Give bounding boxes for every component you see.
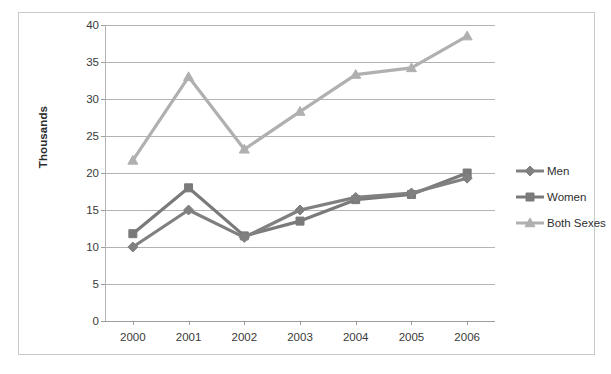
x-tick-label: 2006	[454, 331, 480, 343]
diamond-marker-icon	[516, 163, 544, 179]
y-tick-mark	[101, 321, 105, 322]
series-plot	[105, 25, 495, 321]
x-tick-label: 2004	[343, 331, 369, 343]
y-axis-title: Thousands	[37, 77, 49, 197]
x-tick-label: 2000	[120, 331, 146, 343]
data-point-marker	[462, 31, 472, 40]
y-tick-label: 35	[86, 56, 99, 68]
triangle-marker-icon	[516, 215, 544, 231]
x-tick-label: 2003	[287, 331, 313, 343]
series-men	[128, 173, 472, 252]
legend-label: Both Sexes	[547, 217, 606, 229]
x-tick-label: 2005	[399, 331, 425, 343]
legend-item-both-sexes[interactable]: Both Sexes	[516, 210, 611, 236]
x-tick-mark	[467, 321, 468, 325]
x-tick-mark	[356, 321, 357, 325]
plot-area: 0510152025303540 20002001200220032004200…	[105, 25, 495, 321]
x-tick-mark	[411, 321, 412, 325]
series-both-sexes	[128, 31, 472, 164]
legend-item-men[interactable]: Men	[516, 158, 611, 184]
y-tick-label: 40	[86, 19, 99, 31]
data-point-marker	[296, 217, 304, 225]
data-point-marker	[129, 230, 137, 238]
legend-label: Men	[547, 165, 569, 177]
x-tick-mark	[189, 321, 190, 325]
y-tick-label: 25	[86, 130, 99, 142]
y-tick-label: 30	[86, 93, 99, 105]
legend-label: Women	[547, 191, 586, 203]
y-tick-label: 5	[93, 278, 99, 290]
chart-frame: Thousands 0510152025303540 2000200120022…	[18, 12, 595, 355]
x-tick-mark	[244, 321, 245, 325]
square-marker-icon	[516, 189, 544, 205]
y-tick-label: 15	[86, 204, 99, 216]
x-tick-mark	[133, 321, 134, 325]
data-point-marker	[184, 72, 194, 81]
legend-item-women[interactable]: Women	[516, 184, 611, 210]
x-tick-label: 2001	[176, 331, 202, 343]
y-tick-label: 0	[93, 315, 99, 327]
data-point-marker	[185, 184, 193, 192]
series-line	[133, 36, 467, 160]
chart-legend: MenWomenBoth Sexes	[516, 158, 611, 236]
y-tick-label: 20	[86, 167, 99, 179]
x-tick-mark	[300, 321, 301, 325]
x-tick-label: 2002	[231, 331, 257, 343]
y-tick-label: 10	[86, 241, 99, 253]
